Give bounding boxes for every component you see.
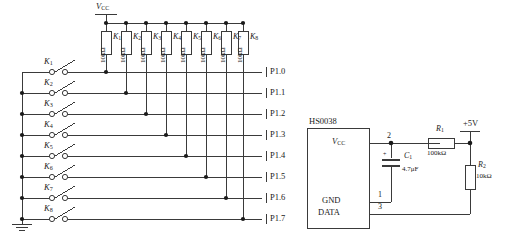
pullup-name-1: K1 <box>113 33 121 42</box>
r1-name-label: R1 <box>436 125 444 134</box>
ic-pin-name-gnd: GND <box>322 196 340 205</box>
vcc-supply-label: VCC <box>96 2 109 11</box>
pullup-name-6: K6 <box>213 33 221 42</box>
r2-value-label: 10kΩ <box>476 173 492 180</box>
switch-label-2: K2 <box>44 78 53 87</box>
pullup-name-7: K7 <box>233 33 241 42</box>
ic-pin-number-1: 1 <box>378 191 382 199</box>
switch-label-5: K5 <box>44 141 53 150</box>
switch-label-6: K6 <box>44 162 53 171</box>
r2-name-label: R2 <box>478 161 486 170</box>
pullup-value-4: 10kΩ <box>160 47 167 63</box>
ic-pin-number-2: 2 <box>387 132 391 140</box>
port-label-p1-3: P1.3 <box>270 130 285 139</box>
switch-label-1: K1 <box>44 57 53 66</box>
circuit-diagram-canvas: VCC K1 K2 K3 K4 K5 K6 K7 K8 K1 K2 K3 K4 … <box>0 0 510 240</box>
pullup-name-4: K4 <box>173 33 181 42</box>
ic-pin-name-vcc: VCC <box>332 137 345 146</box>
pullup-name-3: K3 <box>153 33 161 42</box>
switch-label-3: K3 <box>44 99 53 108</box>
pullup-value-1: 10kΩ <box>100 47 107 63</box>
pullup-value-3: 10kΩ <box>140 47 147 63</box>
pullup-value-2: 10kΩ <box>120 47 127 63</box>
plus5v-label: +5V <box>463 119 478 128</box>
port-label-p1-7: P1.7 <box>270 214 285 223</box>
pullup-name-8: K8 <box>250 33 258 42</box>
ic-pin-name-data: DATA <box>318 208 340 217</box>
pullup-name-2: K2 <box>133 33 141 42</box>
port-label-p1-4: P1.4 <box>270 151 285 160</box>
capacitor-value-label: 4.7μF <box>402 166 418 173</box>
ic-part-number-label: HS0038 <box>309 117 337 126</box>
switch-label-8: K8 <box>44 204 53 213</box>
switch-label-4: K4 <box>44 120 53 129</box>
pullup-name-5: K5 <box>193 33 201 42</box>
capacitor-polarity-label: + <box>383 151 386 157</box>
port-label-p1-2: P1.2 <box>270 109 285 118</box>
ic-pin-number-3: 3 <box>378 203 382 211</box>
pullup-value-7: 10kΩ <box>220 47 227 63</box>
pullup-value-8: 10kΩ <box>237 47 244 63</box>
pullup-value-5: 10kΩ <box>180 47 187 63</box>
r1-value-label: 100kΩ <box>427 150 446 157</box>
port-label-p1-0: P1.0 <box>270 67 285 76</box>
switch-label-7: K7 <box>44 183 53 192</box>
r2-body <box>465 165 475 189</box>
port-label-p1-6: P1.6 <box>270 193 285 202</box>
pullup-value-6: 10kΩ <box>200 47 207 63</box>
capacitor-name-label: C1 <box>404 152 412 161</box>
port-label-p1-1: P1.1 <box>270 88 285 97</box>
junction-dots <box>20 21 472 221</box>
port-label-p1-5: P1.5 <box>270 172 285 181</box>
